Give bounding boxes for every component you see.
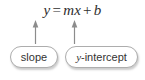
callout-y-intercept-label: -intercept bbox=[81, 51, 127, 63]
equation-line: y=mx+b bbox=[0, 2, 145, 19]
arrow-to-m-icon bbox=[33, 20, 39, 44]
equation-variable-x: x bbox=[74, 2, 81, 18]
slope-intercept-diagram: y=mx+b slope y-intercept bbox=[0, 0, 145, 80]
equation-equals-sign: = bbox=[50, 2, 63, 18]
arrow-to-b-icon bbox=[72, 20, 78, 44]
callout-slope: slope bbox=[10, 46, 58, 68]
equation-plus-sign: + bbox=[81, 2, 94, 18]
callout-y-intercept: y-intercept bbox=[65, 46, 138, 68]
equation-slope-symbol-m: m bbox=[63, 2, 74, 18]
equation-intercept-symbol-b: b bbox=[94, 2, 102, 18]
callout-slope-label: slope bbox=[21, 51, 47, 63]
